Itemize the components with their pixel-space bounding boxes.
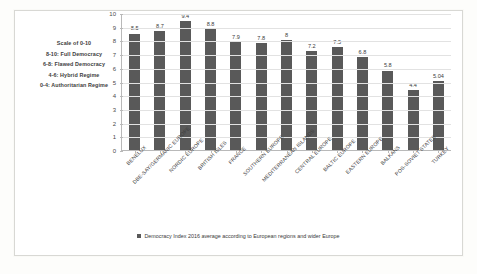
bar[interactable] — [129, 34, 140, 150]
y-axis-tick-label: 9 — [113, 25, 116, 31]
y-axis-tick-mark — [120, 124, 123, 125]
y-axis-tick-label: 7 — [113, 52, 116, 58]
y-axis: 012345678910 — [104, 14, 118, 151]
legend-series-label: Democracy Index 2016 average according t… — [144, 233, 339, 239]
x-axis-category-slot: NORDIC EUROPE — [172, 151, 197, 223]
plot-wrapper: 012345678910 8.58.79.48.87.97.887.27.56.… — [104, 14, 456, 166]
gridline — [122, 69, 451, 70]
gridline — [122, 124, 451, 125]
y-axis-tick-label: 8 — [113, 38, 116, 44]
x-axis-category-slot: CENTRAL EUROPE — [299, 151, 324, 223]
y-axis-tick-mark — [120, 14, 123, 15]
gridline — [122, 96, 451, 97]
gridline — [122, 137, 451, 138]
x-axis-category-slot: MEDITERRANEAN ISLANDS — [273, 151, 298, 223]
x-axis-category-slot: BALTIC EUROPE — [324, 151, 349, 223]
legend-swatch-icon — [137, 234, 141, 238]
x-axis-category-slot: TURKEY — [426, 151, 451, 223]
bar-value-label: 8 — [285, 33, 288, 39]
y-axis-tick-mark — [120, 55, 123, 56]
gridline — [122, 83, 451, 84]
chart-page: Scale of 0-10 8-10: Full Democracy 6-8: … — [0, 0, 477, 274]
y-axis-tick-mark — [120, 110, 123, 111]
y-axis-tick-mark — [120, 137, 123, 138]
gridline — [122, 55, 451, 56]
bar[interactable] — [154, 31, 165, 150]
y-axis-tick-label: 5 — [113, 80, 116, 86]
gridline — [122, 41, 451, 42]
y-axis-tick-label: 6 — [113, 66, 116, 72]
bar[interactable] — [205, 29, 216, 150]
x-axis-category-slot: BRITISH ISLES — [197, 151, 222, 223]
y-axis-tick-label: 0 — [113, 148, 116, 154]
y-axis-tick-label: 10 — [109, 11, 116, 17]
bar-value-label: 5.04 — [433, 74, 444, 80]
x-axis-category-slot: EASTERN EUROPE — [350, 151, 375, 223]
y-axis-tick-mark — [120, 83, 123, 84]
bar[interactable] — [408, 90, 419, 150]
x-axis-category-slot: BALKANS — [375, 151, 400, 223]
y-axis-tick-mark — [120, 41, 123, 42]
y-axis-tick-label: 4 — [113, 93, 116, 99]
gridline — [122, 28, 451, 29]
x-axis-category-slot: FRANCE — [223, 151, 248, 223]
x-axis-category-slot: BENELUX — [121, 151, 146, 223]
y-axis-tick-label: 1 — [113, 134, 116, 140]
gridline — [122, 110, 451, 111]
bar[interactable] — [357, 57, 368, 150]
x-axis-category-slot: DBE-SAY/GERMANIC EUROPE — [146, 151, 171, 223]
x-axis-category-slot: POS-SOVIET STATES — [400, 151, 425, 223]
gridline — [122, 14, 451, 15]
x-axis-category-slot: SOUTHERN EUROPE — [248, 151, 273, 223]
bar-value-label: 7.2 — [308, 44, 316, 50]
bar-value-label: 7.9 — [232, 35, 240, 41]
y-axis-tick-mark — [120, 28, 123, 29]
plot-area: 8.58.79.48.87.97.887.27.56.85.84.45.04 — [121, 14, 451, 151]
y-axis-tick-label: 2 — [113, 121, 116, 127]
x-axis-category-labels: BENELUXDBE-SAY/GERMANIC EUROPENORDIC EUR… — [121, 151, 451, 223]
bar[interactable] — [332, 47, 343, 150]
y-axis-tick-mark — [120, 96, 123, 97]
y-axis-tick-label: 3 — [113, 107, 116, 113]
series-legend: Democracy Index 2016 average according t… — [0, 233, 477, 239]
y-axis-tick-mark — [120, 69, 123, 70]
